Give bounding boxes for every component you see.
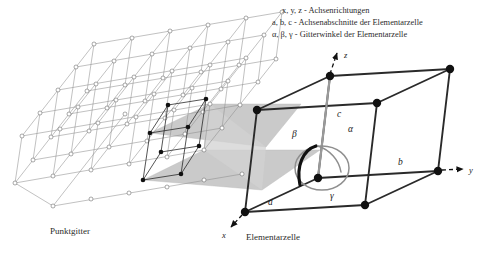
axis-label-x: x (221, 230, 226, 240)
legend-line-2: a, b, c - Achsenabschnitte der Elementar… (272, 18, 423, 27)
axis-label-y: y (468, 165, 473, 175)
vertex-ab (361, 201, 369, 209)
crystal-lattice-figure: a b c α β γ z y x x, y, z - Achsenrichtu (0, 0, 483, 253)
angle-label-gamma: γ (330, 191, 334, 201)
vertex-abc (373, 99, 381, 107)
caption-lattice: Punktgitter (50, 226, 90, 236)
vertex-bc (446, 65, 454, 73)
legend-line-3: α, β, γ - Gitterwinkel der Elementarzell… (272, 30, 407, 39)
edge-label-b: b (398, 157, 403, 167)
edge-label-a: a (268, 197, 273, 207)
legend-line-1: x, y, z - Achsenrichtungen (282, 6, 370, 15)
vertex-a (241, 208, 249, 216)
caption-unit-cell: Elementarzelle (246, 232, 300, 242)
vertex-ac (253, 106, 261, 114)
vertex-b (434, 167, 442, 175)
angle-label-beta: β (291, 129, 297, 139)
vertex-origin (314, 174, 322, 182)
figure-canvas: a b c α β γ z y x x, y, z - Achsenrichtu (0, 0, 483, 253)
axis-label-z: z (343, 50, 348, 60)
